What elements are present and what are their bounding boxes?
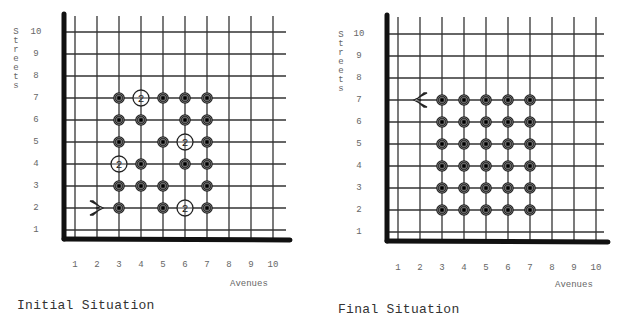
beeper-icon [524,204,536,216]
beeper-icon [179,92,191,104]
y-tick-label: 8 [33,71,38,81]
y-axis-title: Streets [12,28,20,91]
beeper-icon [502,94,514,106]
beeper-icon [458,204,470,216]
beeper-icon [113,202,125,214]
x-tick-label: 1 [395,263,400,273]
beeper-pile-icon: 2 [177,200,193,216]
beeper-icon [113,92,125,104]
y-tick-label: 6 [356,117,361,127]
y-tick-label: 2 [33,203,38,213]
x-tick-label: 5 [483,263,488,273]
south-wall [64,239,290,240]
x-axis-title: Avenues [230,279,268,289]
beeper-pile-icon: 2 [133,90,149,106]
y-tick-label: 6 [33,115,38,125]
x-tick-label: 10 [268,260,279,270]
y-tick-label: 2 [356,205,361,215]
y-tick-label: 3 [356,183,361,193]
initial-situation-panel: 2222 Streets 12345678910 12345678910 Ave… [0,0,315,322]
beeper-icon [524,116,536,128]
beeper-icon [436,116,448,128]
y-tick-label: 4 [33,159,38,169]
beeper-icon [135,158,147,170]
beeper-pile-icon: 2 [111,156,127,172]
beeper-count: 2 [182,203,189,215]
x-tick-label: 7 [204,260,209,270]
caption-initial-situation: Initial Situation [17,298,155,313]
beeper-icon [458,138,470,150]
beeper-icon [157,202,169,214]
y-axis-title-letter: s [337,85,345,94]
initial-world-grid: 2222 [0,0,315,322]
y-tick-label: 9 [33,49,38,59]
beeper-icon [135,114,147,126]
beeper-icon [113,136,125,148]
y-tick-label: 7 [33,93,38,103]
beeper-count: 2 [116,159,123,171]
x-tick-label: 2 [417,263,422,273]
x-tick-label: 3 [439,263,444,273]
beeper-icon [201,114,213,126]
x-tick-label: 9 [248,260,253,270]
beeper-icon [201,92,213,104]
y-tick-label: 10 [354,29,365,39]
x-tick-label: 4 [461,263,466,273]
beeper-icon [436,182,448,194]
beeper-icon [458,182,470,194]
x-tick-label: 5 [160,260,165,270]
final-situation-panel: Streets 12345678910 12345678910 Avenues … [315,0,630,322]
x-tick-label: 6 [505,263,510,273]
x-tick-label: 9 [571,263,576,273]
x-tick-label: 4 [138,260,143,270]
beeper-icon [458,160,470,172]
south-wall [387,241,608,242]
beeper-icon [135,180,147,192]
y-axis-title-letter: s [12,82,20,91]
beeper-icon [458,116,470,128]
beeper-icon [157,136,169,148]
y-tick-label: 8 [356,73,361,83]
y-tick-label: 4 [356,161,361,171]
beeper-icon [502,182,514,194]
beeper-icon [179,158,191,170]
beeper-icon [157,92,169,104]
x-tick-label: 1 [72,260,77,270]
beeper-icon [480,182,492,194]
beeper-pile-icon: 2 [177,134,193,150]
beeper-icon [179,114,191,126]
y-tick-label: 1 [33,225,38,235]
y-tick-label: 9 [356,51,361,61]
y-tick-label: 3 [33,181,38,191]
beeper-icon [524,182,536,194]
beeper-icon [458,94,470,106]
beeper-icon [436,204,448,216]
beeper-icon [480,160,492,172]
beeper-icon [201,202,213,214]
x-tick-label: 7 [527,263,532,273]
beeper-icon [157,180,169,192]
final-world-grid [315,0,630,322]
x-tick-label: 3 [116,260,121,270]
beeper-icon [201,180,213,192]
beeper-icon [480,204,492,216]
beeper-icon [113,180,125,192]
y-axis-title: Streets [337,31,345,94]
beeper-icon [201,136,213,148]
beeper-icon [201,158,213,170]
x-tick-label: 10 [591,263,602,273]
beeper-icon [436,138,448,150]
beeper-icon [502,116,514,128]
beeper-icon [480,94,492,106]
caption-final-situation: Final Situation [338,302,460,317]
beeper-icon [524,160,536,172]
x-axis-title: Avenues [555,280,593,290]
beeper-count: 2 [182,137,189,149]
beeper-icon [480,138,492,150]
beeper-icon [436,160,448,172]
beeper-icon [502,160,514,172]
beeper-icon [524,94,536,106]
beeper-icon [113,114,125,126]
beeper-icon [502,204,514,216]
x-tick-label: 2 [94,260,99,270]
